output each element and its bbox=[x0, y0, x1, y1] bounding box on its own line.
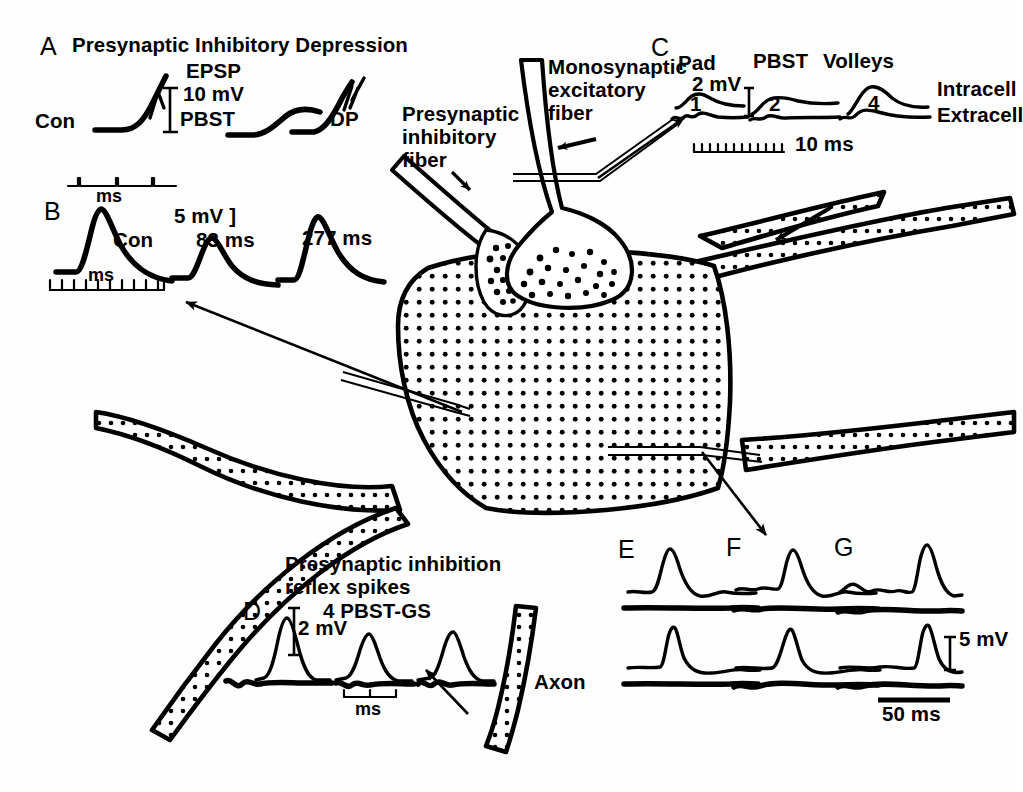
panelEFG-calibration-bar bbox=[944, 637, 956, 670]
panelEFG-calibration-label: 5 mV bbox=[959, 628, 1008, 651]
panelG-bottom-intracell bbox=[840, 625, 962, 672]
panelG-top-intracell bbox=[840, 545, 962, 596]
panelG-bottom-extracell bbox=[838, 684, 962, 687]
panelG-letter: G bbox=[834, 533, 853, 561]
panelG-top-extracell bbox=[838, 609, 962, 612]
panelE-letter: E bbox=[618, 535, 635, 563]
panelF-top-intracell bbox=[736, 550, 876, 596]
panelF-letter: F bbox=[726, 533, 741, 561]
panelEFG-time-scale-label: 50 ms bbox=[882, 703, 941, 726]
